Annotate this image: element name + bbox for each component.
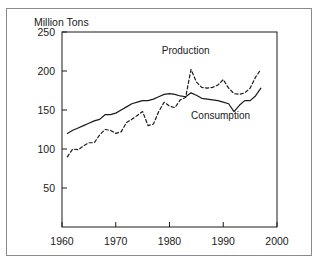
- x-tick-label: 1990: [212, 235, 236, 247]
- x-tick-label: 1960: [50, 235, 74, 247]
- y-tick-label: 200: [37, 65, 55, 77]
- x-axis-tick-labels: 19601970198019902000: [50, 235, 289, 247]
- x-tick-label: 1970: [104, 235, 128, 247]
- x-axis-ticks: [62, 222, 277, 227]
- series-annotations: ProductionConsumption: [162, 45, 250, 121]
- chart-figure: Million Tons 50100150200250 196019701980…: [0, 0, 321, 265]
- x-tick-label: 1980: [158, 235, 182, 247]
- y-axis-ticks: [62, 32, 67, 188]
- y-tick-label: 150: [37, 104, 55, 116]
- series-label-consumption: Consumption: [191, 110, 250, 121]
- y-tick-label: 250: [37, 26, 55, 38]
- plot-frame: [62, 32, 277, 227]
- y-tick-label: 100: [37, 143, 55, 155]
- line-chart: Million Tons 50100150200250 196019701980…: [0, 0, 321, 265]
- y-axis-tick-labels: 50100150200250: [37, 26, 55, 194]
- series-label-production: Production: [162, 45, 210, 56]
- x-tick-label: 2000: [265, 235, 289, 247]
- y-tick-label: 50: [43, 182, 55, 194]
